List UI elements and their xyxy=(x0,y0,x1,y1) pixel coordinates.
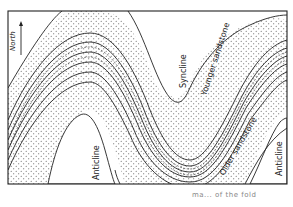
anticline-left-label: Anticline xyxy=(92,145,101,180)
north-label: North xyxy=(9,31,17,51)
fold-diagram: North Syncline Younger sandstone Older s… xyxy=(0,0,293,207)
figure-caption: ma... of the fold xyxy=(192,191,256,199)
syncline-label: Syncline xyxy=(179,54,188,88)
anticline-right-label: Anticline xyxy=(275,141,284,176)
north-arrow-icon xyxy=(19,21,23,55)
